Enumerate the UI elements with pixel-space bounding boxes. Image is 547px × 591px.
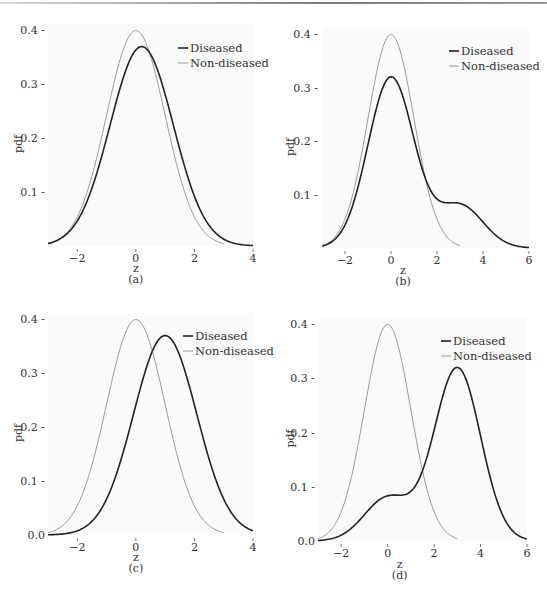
panel-caption: (a) (128, 273, 143, 286)
legend-label: Non-diseased (195, 344, 275, 358)
x-tick-label: 4 (250, 252, 257, 265)
x-tick-label: 4 (250, 541, 257, 554)
x-tick-label: −2 (337, 254, 353, 267)
x-tick-label: −2 (69, 541, 85, 554)
y-tick-label: 0.1 - (20, 186, 45, 199)
x-tick-label: 0 (388, 254, 395, 267)
panel-caption: (c) (128, 562, 143, 575)
x-tick-label: 6 (524, 547, 531, 560)
x-tick-label: −2 (333, 547, 349, 560)
legend-label: Non-diseased (461, 59, 541, 73)
x-tick-label: 2 (191, 252, 198, 265)
y-tick-label: 0.4 - (290, 318, 315, 331)
y-tick-label: 0.3 - (20, 367, 45, 380)
y-axis-title: pdf (284, 137, 297, 156)
y-tick-label: 0.0 (28, 529, 46, 542)
x-tick-label: 2 (434, 254, 441, 267)
panel-c: 0.00.1 -0.2 -0.3 -0.4 -−2024zpdf(c)Disea… (12, 313, 275, 575)
x-tick-label: −2 (69, 252, 85, 265)
legend-label: Diseased (190, 41, 243, 55)
figure: 0.1 -0.2 -0.3 -0.4 -−2024zpdf(a)Diseased… (0, 0, 547, 591)
y-axis-title: pdf (284, 428, 297, 447)
y-tick-label: 0.3 - (293, 82, 318, 95)
x-tick-label: 0 (384, 547, 391, 560)
legend-label: Diseased (461, 44, 514, 58)
y-tick-label: 0.4 - (293, 28, 318, 41)
panel-d: 0.00.1 -0.2 -0.3 -0.4 -−20246zpdf(d)Dise… (284, 318, 533, 582)
y-axis-title: pdf (12, 423, 25, 442)
legend-label: Non-diseased (453, 349, 533, 363)
y-tick-label: 0.0 (298, 535, 316, 548)
y-tick-label: 0.3 - (20, 78, 45, 91)
x-tick-label: 4 (480, 254, 487, 267)
legend-label: Diseased (195, 329, 248, 343)
panel-caption: (d) (392, 569, 408, 582)
x-tick-label: 4 (477, 547, 484, 560)
legend-label: Diseased (453, 334, 506, 348)
panel-a: 0.1 -0.2 -0.3 -0.4 -−2024zpdf(a)Diseased… (12, 24, 270, 286)
y-tick-label: 0.1 - (293, 189, 318, 202)
x-tick-label: 2 (431, 547, 438, 560)
y-tick-label: 0.4 - (20, 24, 45, 37)
x-tick-label: 6 (526, 254, 533, 267)
y-tick-label: 0.1 - (290, 481, 315, 494)
y-tick-label: 0.1 - (20, 475, 45, 488)
y-tick-label: 0.4 - (20, 313, 45, 326)
y-axis-title: pdf (12, 134, 25, 153)
panel-caption: (b) (395, 275, 411, 288)
legend-label: Non-diseased (190, 56, 270, 70)
y-tick-label: 0.2 - (293, 135, 318, 148)
y-tick-label: 0.3 - (290, 372, 315, 385)
x-tick-label: 2 (191, 541, 198, 554)
panel-b: 0.1 -0.2 -0.3 -0.4 -−20246zpdf(b)Disease… (284, 28, 541, 288)
